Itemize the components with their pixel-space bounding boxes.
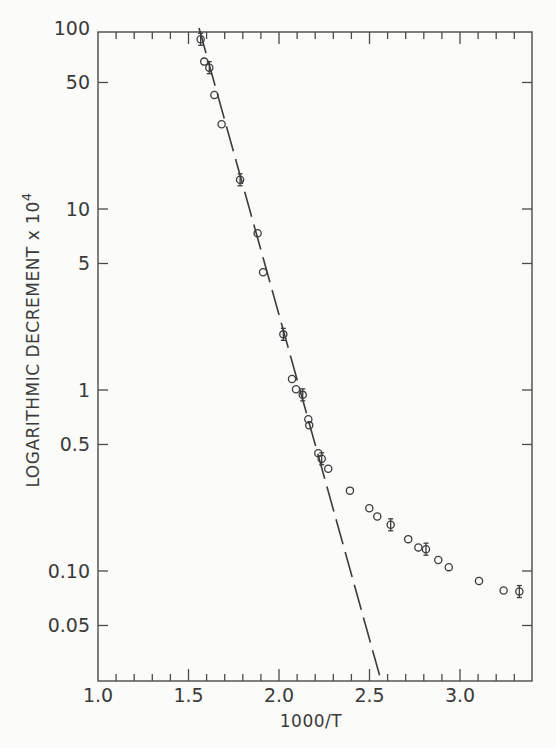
open-circle-marker bbox=[259, 269, 266, 276]
open-circle-marker bbox=[500, 587, 507, 594]
x-axis-ticks: 1.01.52.02.53.0 bbox=[83, 32, 514, 706]
y-tick-label: 0.05 bbox=[48, 614, 90, 636]
data-point bbox=[366, 505, 373, 512]
data-point bbox=[387, 519, 394, 531]
y-tick-label: 100 bbox=[54, 17, 90, 39]
x-tick-label: 3.0 bbox=[445, 684, 475, 706]
data-point bbox=[201, 58, 208, 65]
data-point bbox=[218, 121, 225, 128]
y-axis-ticks: 1005010510.50.100.05 bbox=[48, 17, 532, 636]
data-point bbox=[325, 465, 332, 472]
y-axis-title-superscript: 4 bbox=[19, 192, 34, 201]
y-tick-label: 50 bbox=[66, 71, 90, 93]
open-circle-marker bbox=[201, 58, 208, 65]
plot-frame bbox=[98, 32, 532, 681]
open-circle-marker bbox=[366, 505, 373, 512]
chart: 1.01.52.02.53.0 1005010510.50.100.05 100… bbox=[0, 0, 556, 748]
open-circle-marker bbox=[435, 556, 442, 563]
data-point bbox=[445, 564, 452, 571]
fit-line bbox=[199, 28, 380, 677]
open-circle-marker bbox=[374, 513, 381, 520]
data-point bbox=[346, 487, 353, 494]
y-tick-label: 0.10 bbox=[48, 560, 90, 582]
x-tick-label: 2.0 bbox=[264, 684, 294, 706]
data-point bbox=[435, 556, 442, 563]
open-circle-marker bbox=[218, 121, 225, 128]
open-circle-marker bbox=[445, 564, 452, 571]
data-point bbox=[516, 586, 523, 598]
data-point bbox=[500, 587, 507, 594]
y-tick-label: 5 bbox=[78, 252, 90, 274]
y-tick-label: 0.5 bbox=[60, 433, 90, 455]
data-point bbox=[405, 536, 412, 543]
open-circle-marker bbox=[292, 386, 299, 393]
x-axis-title: 1000/T bbox=[280, 711, 342, 731]
data-point bbox=[259, 269, 266, 276]
open-circle-marker bbox=[288, 375, 295, 382]
open-circle-marker bbox=[475, 577, 482, 584]
y-axis-title: LOGARITHMIC DECREMENT x 104 bbox=[19, 192, 43, 487]
y-tick-label: 1 bbox=[78, 379, 90, 401]
y-tick-label: 10 bbox=[66, 198, 90, 220]
data-point bbox=[422, 543, 429, 555]
open-circle-marker bbox=[346, 487, 353, 494]
open-circle-marker bbox=[415, 544, 422, 551]
data-point bbox=[415, 544, 422, 551]
x-tick-label: 2.5 bbox=[354, 684, 384, 706]
open-circle-marker bbox=[325, 465, 332, 472]
dashed-fit-line bbox=[199, 28, 380, 677]
plot-border bbox=[98, 32, 532, 681]
open-circle-marker bbox=[405, 536, 412, 543]
data-point bbox=[292, 386, 299, 393]
x-tick-label: 1.5 bbox=[173, 684, 203, 706]
data-points bbox=[197, 33, 523, 597]
x-tick-label: 1.0 bbox=[83, 684, 113, 706]
data-point bbox=[288, 375, 295, 382]
data-point bbox=[475, 577, 482, 584]
data-point bbox=[374, 513, 381, 520]
y-axis-title-main: LOGARITHMIC DECREMENT x 10 bbox=[23, 201, 43, 487]
